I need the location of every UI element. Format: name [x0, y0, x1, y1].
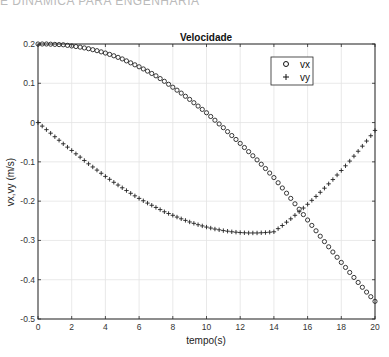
- velocity-chart: 024681012141618200.20.10-0.1-0.2-0.3-0.4…: [0, 0, 389, 357]
- x-tick-label: 0: [36, 322, 41, 332]
- x-tick-label: 20: [370, 322, 380, 332]
- y-tick-label: -0.1: [20, 157, 35, 167]
- y-tick-label: 0.2: [23, 39, 35, 49]
- legend-vx: vx: [300, 59, 310, 70]
- y-tick-label: 0: [30, 118, 35, 128]
- y-tick-label: -0.3: [20, 235, 35, 245]
- x-tick-label: 14: [269, 322, 279, 332]
- x-tick-label: 12: [235, 322, 245, 332]
- legend-vy: vy: [300, 72, 310, 83]
- y-tick-label: -0.4: [20, 275, 35, 285]
- chart-title: Velocidade: [180, 32, 233, 43]
- x-tick-label: 2: [69, 322, 74, 332]
- x-tick-label: 18: [337, 322, 347, 332]
- y-tick-label: 0.1: [23, 78, 35, 88]
- legend: vx vy: [271, 57, 313, 85]
- x-tick-label: 6: [137, 322, 142, 332]
- grid: [38, 44, 375, 319]
- x-tick-label: 4: [103, 322, 108, 332]
- x-tick-label: 10: [202, 322, 212, 332]
- x-axis-label: tempo(s): [186, 335, 225, 346]
- x-tick-label: 8: [170, 322, 175, 332]
- x-tick-label: 16: [303, 322, 313, 332]
- y-tick-label: -0.2: [20, 196, 35, 206]
- y-tick-label: -0.5: [20, 314, 35, 324]
- y-axis-label: vx,vy (m/s): [5, 158, 16, 206]
